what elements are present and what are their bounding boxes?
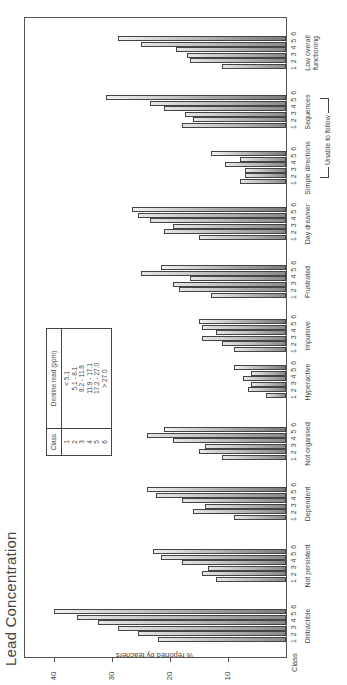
- class-numbers: 1 2 3 4 5 6: [290, 360, 297, 399]
- legend-range: 8.2 - 11.8: [78, 329, 85, 428]
- bar-class-6: [211, 152, 286, 157]
- class-numbers: 1 2 3 4 5 6: [290, 31, 297, 70]
- legend-class: 6: [101, 429, 108, 455]
- bar-class-6: [153, 550, 286, 555]
- bar-group: [24, 34, 286, 69]
- legend-header-lead: Dentine lead (ppm): [47, 329, 61, 428]
- y-tick-label: 30: [107, 666, 116, 685]
- bar-group: [24, 149, 286, 184]
- bar-class-3: [245, 168, 286, 173]
- class-numbers: 1 2 3 4 5 6: [290, 482, 297, 521]
- bar-class-1: [199, 235, 286, 240]
- y-tick: [54, 657, 55, 662]
- class-axis: [286, 18, 287, 658]
- category-label: Not persistent: [304, 536, 312, 596]
- legend-class: 5: [93, 429, 100, 455]
- bar-group: [24, 485, 286, 520]
- bar-class-5: [150, 101, 286, 106]
- bar-class-5: [141, 271, 286, 276]
- bar-class-1: [222, 64, 286, 69]
- bar-class-6: [161, 266, 286, 271]
- bar-group: [24, 263, 286, 298]
- legend-range: 17.2 - 27.0: [93, 329, 100, 428]
- bar-class-2: [138, 632, 286, 637]
- legend-header: Class Dentine lead (ppm): [47, 329, 62, 455]
- category-label: Frustrated: [304, 252, 312, 312]
- bar-class-3: [173, 282, 286, 287]
- bar-class-1: [222, 455, 286, 460]
- bar-class-4: [150, 219, 286, 224]
- bar-class-3: [205, 504, 286, 509]
- category-label: Simple directions: [304, 138, 312, 198]
- bar-class-5: [77, 615, 286, 620]
- bar-class-1: [240, 179, 286, 184]
- legend-header-class: Class: [47, 428, 61, 455]
- bar-class-3: [185, 112, 287, 117]
- bar-class-4: [164, 107, 286, 112]
- bar-class-1: [234, 347, 286, 352]
- bar-class-3: [251, 382, 286, 387]
- bar-class-3: [202, 336, 286, 341]
- bar-class-4: [243, 377, 287, 382]
- class-numbers: 1 2 3 4 5 6: [290, 604, 297, 643]
- bar-class-4: [173, 439, 286, 444]
- bar-group: [24, 547, 286, 582]
- bar-class-5: [147, 433, 286, 438]
- legend-table: Class Dentine lead (ppm) 1< 5.125.1 - 8.…: [46, 328, 112, 456]
- y-tick-label: 10: [223, 666, 232, 685]
- chart-title: Lead Concentration: [2, 531, 19, 666]
- category-label: Sequences: [304, 82, 312, 142]
- bar-class-1: [182, 123, 286, 128]
- bar-class-6: [118, 37, 286, 42]
- bar-class-1: [266, 393, 286, 398]
- legend-range: 11.9 - 17.1: [86, 329, 93, 428]
- bar-class-1: [211, 293, 286, 298]
- legend-range: 5.1 - 8.1: [71, 329, 78, 428]
- legend-range: > 27.0: [101, 329, 108, 428]
- bar-class-2: [193, 118, 286, 123]
- bar-class-1: [158, 637, 286, 642]
- bar-group: [24, 607, 286, 642]
- category-label: Low overall functioning: [304, 23, 320, 83]
- class-numbers: 1 2 3 4 5 6: [290, 422, 297, 461]
- legend-class: 1: [63, 429, 70, 455]
- category-label: Impulsive: [304, 306, 312, 366]
- class-numbers: 1 2 3 4 5 6: [290, 146, 297, 185]
- bar-class-2: [193, 510, 286, 515]
- bar-class-3: [208, 566, 286, 571]
- bar-class-6: [234, 366, 286, 371]
- bar-class-4: [190, 277, 286, 282]
- bar-class-4: [225, 163, 286, 168]
- category-label: Dependent: [304, 474, 312, 534]
- legend-class: 2: [71, 429, 78, 455]
- bar-class-1: [216, 577, 286, 582]
- legend-class: 4: [86, 429, 93, 455]
- unable-to-follow-label: Unable to follow: [324, 113, 331, 167]
- bar-class-4: [216, 331, 286, 336]
- bar-class-2: [222, 342, 286, 347]
- bar-class-6: [164, 428, 286, 433]
- bar-class-2: [245, 174, 286, 179]
- bar-class-4: [182, 499, 286, 504]
- bar-class-5: [240, 157, 286, 162]
- bar-class-2: [164, 230, 286, 235]
- bar-class-2: [202, 572, 286, 577]
- bar-class-4: [98, 621, 287, 626]
- y-tick-label: 40: [49, 666, 58, 685]
- bar-class-5: [141, 42, 286, 47]
- bar-class-6: [106, 96, 286, 101]
- class-numbers: 1 2 3 4 5 6: [290, 314, 297, 353]
- y-axis-label: % reported by teachers: [100, 651, 210, 660]
- bar-class-3: [187, 53, 286, 58]
- bar-class-6: [132, 208, 286, 213]
- class-numbers: 1 2 3 4 5 6: [290, 202, 297, 241]
- category-label: Not organised: [304, 414, 312, 474]
- bar-class-5: [202, 325, 286, 330]
- bar-class-5: [156, 493, 287, 498]
- legend-class: 3: [78, 429, 85, 455]
- bar-class-5: [161, 555, 286, 560]
- bar-class-4: [182, 561, 286, 566]
- legend-range: < 5.1: [63, 329, 70, 428]
- bar-class-3: [173, 224, 286, 229]
